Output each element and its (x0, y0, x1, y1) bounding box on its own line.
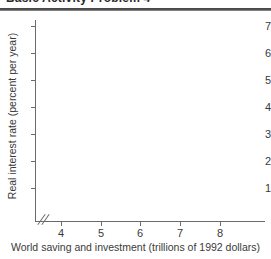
x-tick-label: 5 (91, 227, 111, 239)
y-tick-label: 7 (253, 21, 271, 32)
x-tick-mark (180, 222, 181, 226)
y-tick-mark (31, 53, 35, 54)
x-tick-label: 4 (51, 227, 71, 239)
y-tick-label: 2 (253, 156, 271, 167)
y-tick-label: 5 (253, 75, 271, 86)
x-axis-title: World saving and investment (trillions o… (0, 241, 271, 253)
figure-container: Basic Activity Problem 4 7 6 5 4 3 2 1 (0, 0, 271, 259)
x-tick-label: 6 (130, 227, 150, 239)
y-tick-mark (31, 161, 35, 162)
axis-break-icon (38, 213, 52, 225)
y-tick-mark (31, 188, 35, 189)
chart-plot: 7 6 5 4 3 2 1 4 5 6 7 8 Real interest ra… (0, 0, 271, 259)
y-tick-label: 4 (253, 102, 271, 113)
y-tick-label: 3 (253, 129, 271, 140)
x-axis-line (35, 221, 265, 222)
y-tick-mark (31, 80, 35, 81)
y-tick-mark (31, 107, 35, 108)
y-tick-label: 1 (253, 183, 271, 194)
y-tick-mark (31, 26, 35, 27)
y-tick-label: 6 (253, 48, 271, 59)
x-tick-mark (220, 222, 221, 226)
y-axis-line (35, 20, 36, 222)
y-axis-title: Real interest rate (percent per year) (6, 16, 18, 216)
x-tick-label: 8 (210, 227, 230, 239)
x-tick-label: 7 (170, 227, 190, 239)
plot-interior-blank (36, 20, 265, 221)
x-tick-mark (140, 222, 141, 226)
x-tick-mark (101, 222, 102, 226)
x-tick-mark (61, 222, 62, 226)
y-tick-mark (31, 134, 35, 135)
